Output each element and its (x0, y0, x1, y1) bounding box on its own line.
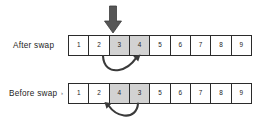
array-cell: 2 (89, 84, 109, 103)
array-row-before-swap: 1 2 4 3 5 6 7 8 9 (68, 83, 252, 104)
array-cell: 7 (191, 84, 211, 103)
array-cell: 5 (150, 84, 170, 103)
array-cell: 9 (232, 84, 251, 103)
before-swap-tick-icon: › (61, 90, 63, 96)
down-arrow-icon (104, 6, 122, 34)
array-cell: 5 (150, 36, 170, 55)
array-cell: 7 (191, 36, 211, 55)
array-cell: 8 (211, 36, 231, 55)
array-cell: 1 (69, 84, 89, 103)
curved-arrow-up-right-icon (100, 54, 146, 78)
array-cell: 4 (130, 36, 150, 55)
array-cell: 4 (110, 84, 130, 103)
row-label-after-swap: After swap (13, 41, 54, 50)
array-cell: 8 (211, 84, 231, 103)
array-cell: 1 (69, 36, 89, 55)
row-label-before-swap: Before swap (9, 89, 57, 98)
array-row-after-swap: 1 2 3 4 5 6 7 8 9 (68, 35, 252, 56)
array-cell: 9 (232, 36, 251, 55)
array-cell: 6 (171, 84, 191, 103)
array-cell: 6 (171, 36, 191, 55)
array-cell: 3 (110, 36, 130, 55)
array-cell: 2 (89, 36, 109, 55)
curved-arrow-up-left-icon (100, 102, 146, 122)
array-cell: 3 (130, 84, 150, 103)
array-swap-diagram: After swap Before swap › 1 2 3 4 5 6 7 8… (0, 0, 258, 125)
